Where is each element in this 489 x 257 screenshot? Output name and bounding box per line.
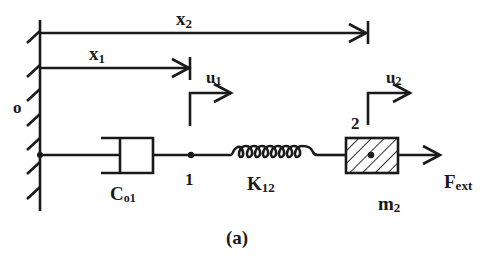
external-force-arrow <box>398 146 440 164</box>
node-1-label: 1 <box>185 170 194 189</box>
u2-displacement-arrow <box>368 84 410 125</box>
spring-damper-mass-diagram: o x2 x1 u1 u2 Co1 1 K12 2 <box>0 0 489 257</box>
u2-label: u2 <box>386 68 401 88</box>
u1-label: u1 <box>206 68 221 88</box>
force-label: Fext <box>444 171 473 193</box>
x1-dimension-arrow <box>40 57 190 80</box>
x2-dimension-arrow <box>40 21 368 44</box>
spring <box>231 146 318 157</box>
spring-label: K12 <box>247 173 275 195</box>
node-1-point <box>188 152 194 158</box>
fixed-wall <box>27 20 43 211</box>
x2-label: x2 <box>176 8 192 31</box>
node-2-label: 2 <box>351 114 360 133</box>
figure-caption: (a) <box>226 227 248 249</box>
mass-label: m2 <box>378 193 400 215</box>
u1-displacement-arrow <box>190 84 231 126</box>
x1-label: x1 <box>89 43 105 66</box>
origin-label: o <box>13 98 22 117</box>
mass-block <box>346 138 398 173</box>
damper-label: Co1 <box>110 183 136 205</box>
